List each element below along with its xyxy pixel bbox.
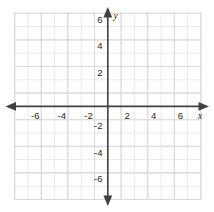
y-axis-label: y <box>113 11 119 21</box>
y-tick-label-6: 6 <box>97 14 102 25</box>
x-tick-label--4: -4 <box>58 110 66 121</box>
x-tick-label-6: 6 <box>178 110 183 121</box>
x-tick-label-2: 2 <box>124 110 129 121</box>
x-tick-label--2: -2 <box>84 110 92 121</box>
y-tick-label--2: -2 <box>94 120 102 131</box>
x-axis-label: x <box>197 111 203 121</box>
coordinate-plane-figure: -2 -4 -6 2 4 6 6 4 2 -2 -4 -6 y x <box>0 0 214 212</box>
y-tick-label--6: -6 <box>94 173 102 184</box>
y-tick-label-4: 4 <box>97 40 102 51</box>
x-tick-label-4: 4 <box>151 110 156 121</box>
y-tick-label-2: 2 <box>97 67 102 78</box>
y-tick-label--4: -4 <box>94 147 102 158</box>
x-tick-label--6: -6 <box>31 110 39 121</box>
coordinate-plane-canvas: -2 -4 -6 2 4 6 6 4 2 -2 -4 -6 y x <box>0 0 214 212</box>
